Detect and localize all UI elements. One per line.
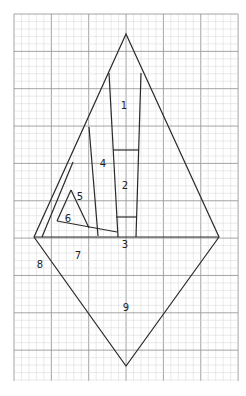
pattern-diagram: 123456789 <box>0 0 246 396</box>
piece-8-strip-edge <box>42 162 73 237</box>
piece-label-2: 2 <box>122 180 128 191</box>
piece-label-9: 9 <box>123 302 129 313</box>
piece-label-1: 1 <box>121 100 127 111</box>
graph-paper-grid <box>14 14 238 381</box>
piece-label-4: 4 <box>100 158 106 169</box>
piece-label-8: 8 <box>37 259 43 270</box>
column-right-edge <box>136 73 141 237</box>
piece-label-5: 5 <box>77 191 83 202</box>
column-left-edge <box>109 73 118 237</box>
piece-label-7: 7 <box>75 250 81 261</box>
piece-label-3: 3 <box>122 239 128 250</box>
piece-4-edge <box>89 127 98 236</box>
piece-label-6: 6 <box>65 213 71 224</box>
piece-labels: 123456789 <box>37 100 129 313</box>
